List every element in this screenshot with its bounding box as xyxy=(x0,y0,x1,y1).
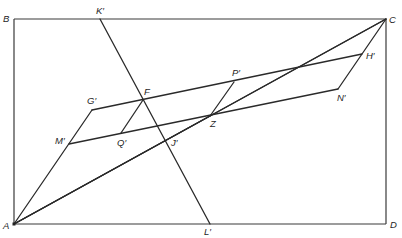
label-L: L′ xyxy=(204,226,212,237)
label-P: P′ xyxy=(232,67,241,78)
line-K-L xyxy=(100,19,210,224)
label-M: M′ xyxy=(55,135,66,146)
line-A-G xyxy=(14,110,92,224)
label-F: F xyxy=(144,86,151,97)
label-K: K′ xyxy=(96,5,105,16)
label-A: A xyxy=(2,220,9,231)
line-C-N xyxy=(338,19,386,89)
line-F-Q xyxy=(121,100,143,133)
label-Q: Q′ xyxy=(117,137,127,148)
line-G-H xyxy=(92,54,362,110)
line-M-N xyxy=(69,89,338,144)
label-D: D xyxy=(390,219,397,230)
label-J: J′ xyxy=(170,137,179,148)
label-Z: Z xyxy=(209,118,217,129)
geometric-diagram: B C A D K′ L′ F G′ H′ M′ N′ P′ Q′ J′ Z xyxy=(0,0,402,238)
label-C: C xyxy=(389,14,396,25)
point-A-marker xyxy=(13,223,16,226)
label-G: G′ xyxy=(87,95,97,106)
label-H: H′ xyxy=(366,50,376,61)
label-B: B xyxy=(3,13,10,24)
label-N: N′ xyxy=(337,92,347,103)
